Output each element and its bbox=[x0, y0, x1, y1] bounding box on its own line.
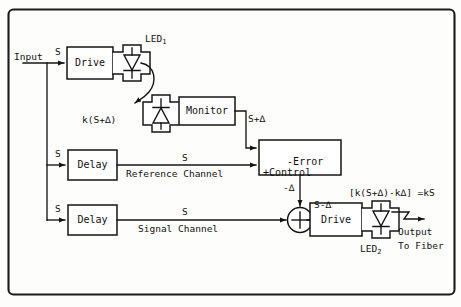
block-label-drive-2: Drive bbox=[310, 214, 362, 226]
equation-term-2: k∆ bbox=[395, 187, 406, 198]
label-sig-channel-s: S bbox=[182, 206, 188, 217]
equation-equals: =kS bbox=[412, 187, 435, 198]
label-s-delay-ref: S bbox=[55, 148, 61, 159]
label-equation: [k(S+∆)-k∆] =kS bbox=[326, 176, 435, 209]
label-ref-channel-s: S bbox=[182, 152, 188, 163]
label-led2-subscript: 2 bbox=[377, 248, 381, 256]
block-label-delay-ref: Delay bbox=[68, 159, 117, 171]
label-led1-text: LED bbox=[145, 33, 162, 44]
label-led1: LED1 bbox=[145, 33, 166, 48]
equation-term-1: k(S+∆) bbox=[355, 187, 389, 198]
label-signal-channel: Signal Channel bbox=[138, 223, 218, 234]
label-led1-subscript: 1 bbox=[162, 38, 166, 46]
equation-open-bracket: [ bbox=[349, 187, 355, 198]
label-k-s-plus-delta: k(S+∆) bbox=[82, 114, 116, 125]
label-s-delay-sig: S bbox=[55, 203, 61, 214]
label-s-input: S bbox=[55, 46, 61, 57]
block-label-monitor: Monitor bbox=[179, 105, 235, 117]
label-input: Input bbox=[14, 51, 43, 62]
block-label-drive-1: Drive bbox=[67, 57, 113, 69]
diagram-canvas: Input S Drive LED1 k(S+∆) Monitor S+∆ -E… bbox=[0, 0, 461, 307]
label-led2-text: LED bbox=[360, 243, 377, 254]
label-led2: LED2 bbox=[360, 243, 381, 258]
label-reference-channel: Reference Channel bbox=[126, 168, 223, 179]
diagram-svg bbox=[0, 0, 461, 307]
label-output: Output bbox=[398, 226, 432, 237]
block-label-delay-sig: Delay bbox=[68, 214, 117, 226]
label-s-plus-delta: S+∆ bbox=[248, 113, 265, 124]
label-minus-delta: -∆ bbox=[283, 182, 294, 193]
label-to-fiber: To Fiber bbox=[398, 240, 444, 251]
error-line: -Error+Control bbox=[263, 156, 323, 179]
